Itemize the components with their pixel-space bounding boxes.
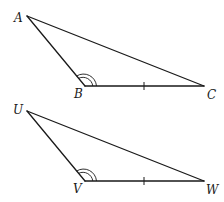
side-ac <box>27 16 204 86</box>
side-uw <box>27 111 204 181</box>
side-ab <box>27 16 85 86</box>
vertex-label-b: B <box>73 87 83 101</box>
vertex-label-u: U <box>13 103 24 117</box>
triangle-uvw: U V W <box>13 103 220 197</box>
vertex-label-v: V <box>73 182 83 196</box>
diagram-canvas: A B C U V W <box>0 0 224 202</box>
vertex-label-a: A <box>13 11 23 25</box>
vertex-label-c: C <box>207 88 216 102</box>
triangle-abc: A B C <box>13 11 216 102</box>
vertex-label-w: W <box>206 183 220 197</box>
side-uv <box>27 111 85 181</box>
